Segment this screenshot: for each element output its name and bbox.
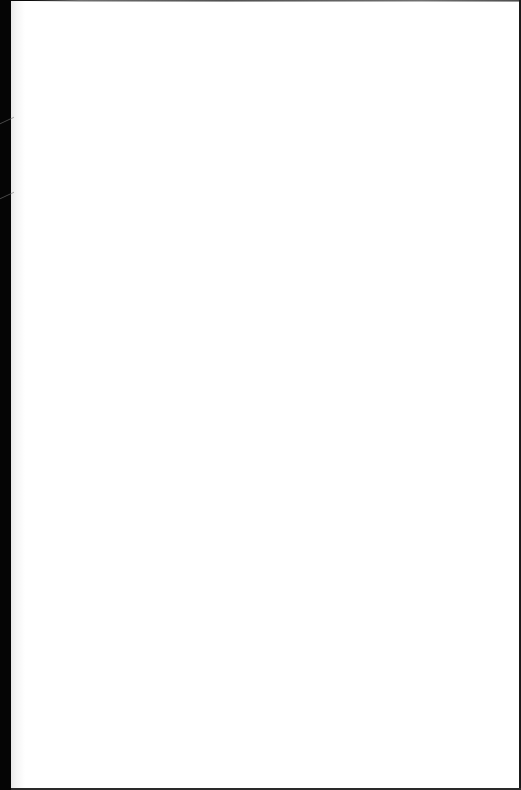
blank-page: [11, 1, 519, 788]
top-page-edge: [30, 0, 520, 2]
